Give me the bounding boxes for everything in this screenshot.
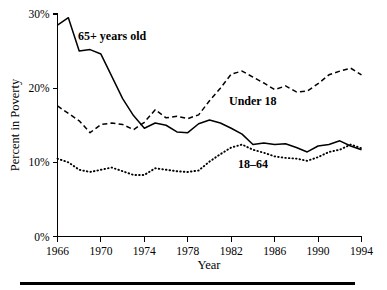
x-tick-label: 1994: [350, 245, 373, 257]
x-tick-label: 1966: [46, 245, 69, 257]
series-line-18-64: [58, 145, 362, 175]
y-tick-label: 30%: [28, 8, 50, 20]
y-axis-title: Percent in Poverty: [8, 78, 22, 171]
chart-figure: 0%10%20%30% 1966197019741978198219861990…: [0, 0, 387, 290]
y-axis-ticks: [53, 14, 58, 237]
footer-rule: [20, 282, 355, 285]
y-axis-tick-labels: 0%10%20%30%: [28, 8, 50, 243]
x-tick-label: 1982: [220, 245, 243, 257]
series-label-under-18: Under 18: [229, 94, 276, 108]
x-axis-tick-labels: 19661970197419781982198619901994: [46, 245, 373, 257]
x-tick-label: 1986: [263, 245, 286, 257]
y-tick-label: 0%: [34, 231, 50, 243]
y-tick-label: 20%: [28, 82, 50, 94]
x-axis-title: Year: [197, 258, 221, 272]
x-tick-label: 1970: [89, 245, 112, 257]
series-label-18-64: 18–64: [238, 157, 268, 171]
series-line-under-18: [58, 68, 362, 133]
x-axis-ticks: [58, 237, 362, 242]
x-tick-label: 1978: [176, 245, 199, 257]
x-tick-label: 1974: [133, 245, 156, 257]
poverty-line-chart: 0%10%20%30% 1966197019741978198219861990…: [0, 0, 387, 290]
x-tick-label: 1990: [307, 245, 330, 257]
y-tick-label: 10%: [28, 156, 50, 168]
series-label-65-plus: 65+ years old: [78, 29, 146, 43]
